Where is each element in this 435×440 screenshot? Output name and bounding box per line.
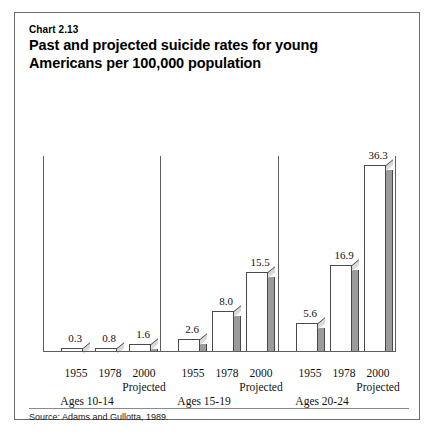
bar-side-face	[268, 277, 275, 352]
bar-side-face	[352, 270, 359, 352]
chart-figure-frame: Chart 2.13 Past and projected suicide ra…	[14, 12, 420, 420]
bar-value-label: 36.3	[358, 149, 398, 161]
group-separator-line	[278, 156, 279, 352]
bar-value-label: 16.9	[324, 249, 364, 261]
bar-side-face	[386, 170, 393, 352]
chart-header: Chart 2.13 Past and projected suicide ra…	[29, 23, 359, 72]
chart-number-label: Chart 2.13	[29, 23, 359, 36]
source-divider	[29, 408, 409, 409]
chart-title-line-2: Americans per 100,000 population	[29, 55, 261, 71]
bar-side-face	[318, 328, 325, 352]
group-separator-line	[160, 156, 161, 352]
x-axis-baseline	[43, 351, 395, 352]
bar-value-label: 15.5	[240, 256, 280, 268]
chart-title: Past and projected suicide rates for you…	[29, 37, 359, 72]
bar-front-face	[296, 323, 318, 352]
x-axis-year-label: 2000	[356, 367, 400, 379]
x-axis-group-label: Ages 15-19	[159, 395, 249, 407]
x-axis-projected-label: Projected	[231, 381, 291, 393]
group-separator-line	[395, 156, 396, 352]
bar-side-face	[234, 316, 241, 352]
x-axis-year-label: 2000	[239, 367, 283, 379]
bar-front-face	[330, 265, 352, 352]
x-axis-projected-label: Projected	[114, 381, 174, 393]
bar-value-label: 1.6	[123, 328, 163, 340]
x-axis-group-label: Ages 10-14	[42, 395, 132, 407]
chart-title-line-1: Past and projected suicide rates for you…	[29, 37, 318, 53]
source-note: Source: Adams and Gullotta, 1989.	[29, 412, 169, 422]
plot-area: 0.30.81.62.68.015.55.616.936.3	[43, 156, 395, 352]
x-axis-year-label: 2000	[122, 367, 166, 379]
bar-front-face	[246, 272, 268, 352]
bar-value-label: 5.6	[290, 307, 330, 319]
bar-front-face	[364, 165, 386, 352]
bar-value-label: 8.0	[206, 295, 246, 307]
bar-front-face	[212, 311, 234, 352]
x-axis-projected-label: Projected	[348, 381, 408, 393]
bar-value-label: 2.6	[172, 323, 212, 335]
y-axis-line	[43, 156, 44, 352]
x-axis-group-label: Ages 20-24	[277, 395, 367, 407]
